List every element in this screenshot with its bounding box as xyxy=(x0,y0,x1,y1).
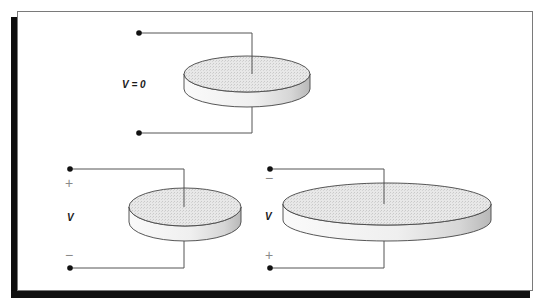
disk-top-face xyxy=(283,183,491,225)
disk-element-top xyxy=(136,30,310,136)
terminal-dot-bottom xyxy=(67,265,73,271)
voltage-label-left: V xyxy=(67,213,74,223)
polarity-sign-left-top: + xyxy=(65,176,73,190)
terminal-dot-bottom xyxy=(267,265,273,271)
terminal-dot-top xyxy=(136,30,142,36)
voltage-label-right: V xyxy=(265,212,272,222)
polarity-sign-right-top: − xyxy=(265,171,273,185)
bottom-wire xyxy=(139,107,252,133)
bottom-wire xyxy=(70,241,184,268)
terminal-dot-bottom xyxy=(136,130,142,136)
bottom-wire xyxy=(270,241,384,268)
disk-top-face xyxy=(129,188,241,226)
disk-top-face xyxy=(184,56,310,92)
disk-element-bottom-left xyxy=(67,166,241,271)
polarity-sign-right-bottom: + xyxy=(265,248,273,262)
polarity-sign-left-bottom: − xyxy=(65,248,73,262)
voltage-label-top: V = 0 xyxy=(122,80,146,90)
disk-element-bottom-right xyxy=(267,166,491,271)
diagram-canvas: V = 0 + V − − V + xyxy=(0,0,545,302)
terminal-dot-top xyxy=(67,166,73,172)
